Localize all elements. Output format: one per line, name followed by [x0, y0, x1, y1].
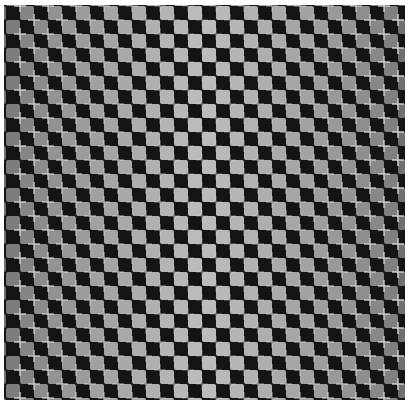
checker-square — [104, 6, 118, 20]
checker-square — [90, 104, 104, 118]
checker-square — [146, 160, 160, 174]
checker-square — [202, 300, 216, 314]
checker-square — [174, 76, 188, 90]
checker-square — [104, 174, 118, 188]
checker-square — [272, 174, 286, 188]
checker-square — [244, 174, 258, 188]
checker-square — [4, 62, 6, 76]
checker-square — [328, 230, 342, 244]
checker-square — [160, 90, 174, 104]
checker-square — [174, 188, 188, 202]
checker-square — [118, 132, 132, 146]
checker-square — [48, 174, 62, 188]
checker-square — [20, 118, 34, 132]
checker-square — [20, 6, 34, 20]
checker-square — [76, 258, 90, 272]
checker-square — [230, 328, 244, 342]
checker-square — [132, 6, 146, 20]
checker-square — [76, 342, 90, 356]
checker-square — [244, 118, 258, 132]
checker-square — [356, 174, 370, 188]
checker-square — [286, 244, 300, 258]
checker-square — [20, 370, 34, 384]
checker-square — [342, 300, 356, 314]
checker-square — [90, 216, 104, 230]
checker-square — [20, 34, 34, 48]
checker-square — [342, 328, 356, 342]
checker-square — [300, 34, 314, 48]
checker-square — [272, 62, 286, 76]
checker-square — [216, 90, 230, 104]
checker-square — [370, 160, 384, 174]
checker-square — [342, 104, 356, 118]
checker-square — [104, 258, 118, 272]
checker-square — [118, 188, 132, 202]
checker-square — [48, 6, 62, 20]
checker-square — [4, 398, 6, 400]
checker-square — [314, 20, 328, 34]
checker-square — [90, 76, 104, 90]
checker-square — [20, 342, 34, 356]
checker-square — [356, 90, 370, 104]
checker-square — [328, 146, 342, 160]
checker-square — [328, 174, 342, 188]
checker-square — [384, 202, 398, 216]
checker-square — [216, 34, 230, 48]
checker-square — [300, 230, 314, 244]
checker-square — [286, 132, 300, 146]
checker-square — [384, 370, 398, 384]
checker-square — [6, 104, 20, 118]
checker-square — [356, 370, 370, 384]
checker-square — [146, 76, 160, 90]
checker-square — [314, 272, 328, 286]
checker-square — [314, 328, 328, 342]
checker-square — [48, 286, 62, 300]
checker-square — [34, 300, 48, 314]
checker-square — [76, 118, 90, 132]
checker-square — [314, 384, 328, 398]
checker-square — [272, 286, 286, 300]
checker-square — [132, 230, 146, 244]
checker-square — [104, 230, 118, 244]
checker-square — [6, 216, 20, 230]
checker-square — [300, 118, 314, 132]
checker-square — [300, 370, 314, 384]
checker-square — [300, 342, 314, 356]
checker-square — [202, 160, 216, 174]
checker-square — [20, 62, 34, 76]
checker-square — [6, 48, 20, 62]
checker-square — [314, 216, 328, 230]
checker-square — [160, 230, 174, 244]
checker-square — [272, 202, 286, 216]
checker-square — [104, 286, 118, 300]
checker-square — [272, 230, 286, 244]
checker-square — [202, 104, 216, 118]
checker-square — [286, 20, 300, 34]
checker-square — [6, 20, 20, 34]
checker-square — [104, 118, 118, 132]
checker-square — [342, 160, 356, 174]
checker-square — [230, 48, 244, 62]
checker-square — [188, 202, 202, 216]
checker-square — [216, 146, 230, 160]
checker-square — [48, 90, 62, 104]
checker-square — [244, 258, 258, 272]
checker-square — [286, 356, 300, 370]
checker-square — [188, 118, 202, 132]
checker-square — [90, 356, 104, 370]
checker-square — [62, 188, 76, 202]
checker-square — [314, 104, 328, 118]
checker-square — [90, 300, 104, 314]
checker-square — [132, 258, 146, 272]
checker-square — [6, 188, 20, 202]
checker-square — [356, 62, 370, 76]
checker-square — [202, 48, 216, 62]
checker-square — [20, 90, 34, 104]
checker-square — [4, 118, 6, 132]
checker-square — [104, 62, 118, 76]
checker-square — [146, 244, 160, 258]
checker-square — [146, 188, 160, 202]
checker-square — [230, 104, 244, 118]
checker-square — [370, 328, 384, 342]
checker-square — [34, 160, 48, 174]
